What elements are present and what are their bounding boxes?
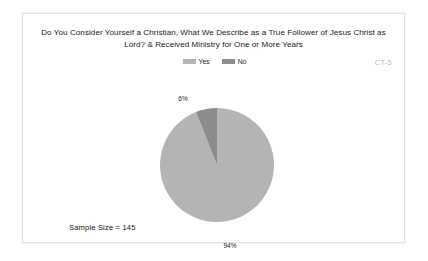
pie-slice-label-no: 6% <box>163 95 203 102</box>
legend-item-no[interactable]: No <box>222 58 247 65</box>
legend-swatch-yes <box>183 59 196 64</box>
chart-legend: Yes No <box>23 58 406 65</box>
legend-swatch-no <box>222 59 235 64</box>
legend-label-no: No <box>238 58 247 65</box>
legend-item-yes[interactable]: Yes <box>183 58 210 65</box>
page-title: Do You Consider Yourself a Christian, Wh… <box>37 27 390 50</box>
pie-slices <box>160 108 274 222</box>
sample-size-note: Sample Size = 145 <box>69 223 136 232</box>
pie-slice-label-yes: 94% <box>210 242 250 249</box>
slide-reference-code: CT-5 <box>375 58 392 67</box>
slide-card: Do You Consider Yourself a Christian, Wh… <box>22 13 405 243</box>
pie-chart <box>159 107 275 223</box>
legend-label-yes: Yes <box>199 58 210 65</box>
pie-chart-svg <box>159 107 275 223</box>
